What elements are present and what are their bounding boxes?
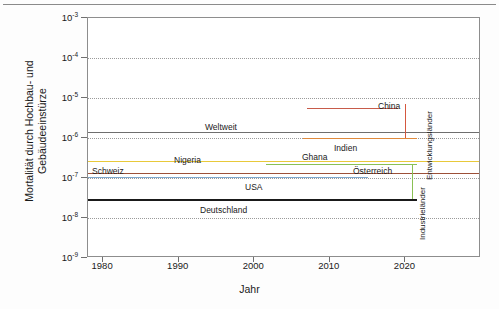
gridline-1e-7: [88, 178, 479, 179]
series-label-schweiz: Schweiz: [92, 166, 124, 176]
series-line-usa: [88, 177, 368, 178]
y-tick-exponent: -7: [72, 171, 78, 178]
y-tick-exponent: -5: [72, 91, 78, 98]
x-tick-mark-1990: [178, 257, 179, 262]
x-tick-mark-2010: [329, 257, 330, 262]
y-tick-mantissa: 10: [62, 12, 73, 23]
series-label-oesterreich: Österreich: [353, 166, 392, 176]
x-tick-mark-2020: [404, 257, 405, 262]
figure-root: 10-310-410-510-610-710-810-9 19801990200…: [0, 0, 499, 309]
series-label-usa: USA: [245, 182, 262, 192]
y-tick-mark-1e-9: [81, 257, 87, 258]
bracket-bar-entwicklungslaender: [405, 104, 406, 138]
bracket-label-industrielaender: Industrieländer: [418, 187, 427, 240]
series-label-weltweit: Weltweit: [205, 122, 237, 132]
y-tick-exponent: -4: [72, 51, 78, 58]
series-line-schweiz: [88, 173, 480, 174]
bracket-label-entwicklungslaender: Entwicklungsländer: [425, 111, 434, 180]
series-label-indien: Indien: [334, 143, 357, 153]
y-tick-mantissa: 10: [62, 52, 73, 63]
series-label-ghana: Ghana: [302, 152, 328, 162]
series-line-indien: [303, 138, 416, 139]
y-tick-exponent: -8: [72, 211, 78, 218]
y-tick-exponent: -6: [72, 131, 78, 138]
gridline-1e-6: [88, 138, 479, 139]
x-tick-mark-1980: [102, 257, 103, 262]
x-axis-title: Jahr: [0, 283, 499, 295]
series-line-deutschland: [88, 199, 417, 201]
y-tick-exponent: -3: [72, 11, 78, 18]
gridline-1e-4: [88, 58, 479, 59]
x-tick-mark-2000: [253, 257, 254, 262]
series-label-deutschland: Deutschland: [200, 205, 247, 215]
y-tick-mantissa: 10: [62, 132, 73, 143]
series-label-china: China: [378, 101, 400, 111]
gridline-1e-5: [88, 98, 479, 99]
y-tick-mantissa: 10: [62, 172, 73, 183]
y-axis-title: Mortalität durch Hochbau- und Gebäudeein…: [23, 11, 49, 251]
y-tick-label-1e-9: 10-9: [38, 251, 78, 263]
bracket-bar-industrielaender: [412, 164, 413, 199]
series-line-ghana: [266, 164, 417, 165]
y-tick-mantissa: 10: [62, 212, 73, 223]
y-axis-title-line2: Gebäudeeinstürze: [36, 88, 48, 174]
y-tick-mantissa: 10: [62, 92, 73, 103]
series-line-weltweit: [88, 132, 480, 133]
series-label-nigeria: Nigeria: [174, 155, 201, 165]
y-tick-exponent: -9: [72, 251, 78, 258]
y-tick-mantissa: 10: [62, 252, 73, 263]
figure-top-rule: [3, 4, 496, 5]
y-axis-title-line1: Mortalität durch Hochbau- und: [23, 60, 35, 201]
series-line-nigeria: [88, 161, 480, 162]
